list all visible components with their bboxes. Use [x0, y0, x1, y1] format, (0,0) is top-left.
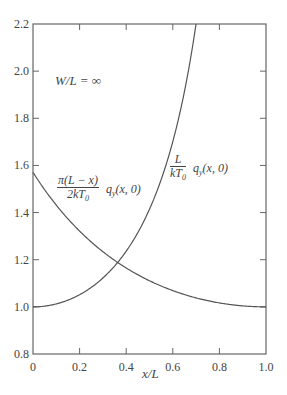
label-args: (x, 0) [203, 161, 228, 175]
svg-text:2.2: 2.2 [14, 17, 29, 31]
label-numerator: L [170, 153, 186, 167]
svg-text:1.2: 1.2 [14, 253, 29, 267]
label-args: (x, 0) [115, 182, 140, 196]
x-axis-label: x/L [142, 366, 159, 382]
label-subscript: 0 [85, 194, 89, 203]
svg-text:0.4: 0.4 [119, 360, 134, 374]
svg-text:0.2: 0.2 [72, 360, 87, 374]
svg-text:0: 0 [30, 360, 36, 374]
svg-text:1.8: 1.8 [14, 111, 29, 125]
label-denominator: 2kT [67, 187, 85, 201]
svg-text:0.6: 0.6 [165, 360, 180, 374]
label-denominator: kT [170, 166, 182, 180]
svg-text:1.0: 1.0 [14, 300, 29, 314]
label-subscript: 0 [182, 173, 186, 182]
axis-ticks: 00.20.40.60.81.00.81.01.21.41.61.82.02.2 [14, 17, 274, 374]
curve-label-falling: π(L − x) 2kT0 qy(x, 0) [57, 174, 141, 205]
data-curves [33, 24, 266, 307]
svg-text:0.8: 0.8 [212, 360, 227, 374]
annotation-wl-infinity: W/L = ∞ [55, 73, 101, 89]
svg-text:1.0: 1.0 [259, 360, 274, 374]
svg-text:2.0: 2.0 [14, 64, 29, 78]
svg-text:1.6: 1.6 [14, 158, 29, 172]
chart-plot: 00.20.40.60.81.00.81.01.21.41.61.82.02.2 [0, 0, 287, 395]
svg-text:1.4: 1.4 [14, 206, 29, 220]
curve-label-rising: L kT0 qy(x, 0) [170, 153, 228, 184]
label-numerator: π(L − x) [57, 174, 99, 188]
svg-text:0.8: 0.8 [14, 347, 29, 361]
